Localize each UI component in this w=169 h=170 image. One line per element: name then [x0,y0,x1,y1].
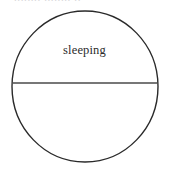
upper-region-label: sleeping [0,43,169,57]
circle-outline [12,11,158,162]
figure-canvas: ........ ........ .. sleeping [0,0,169,170]
circle-diagram [0,0,169,170]
